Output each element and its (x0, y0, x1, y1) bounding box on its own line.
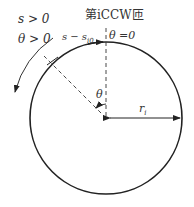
theta-angle-arc (96, 104, 106, 108)
s-minus-subscript: i0 (87, 37, 94, 45)
radius-subscript: i (144, 109, 146, 117)
s-minus-label: s − si0 (62, 32, 94, 45)
diagram-title: 第iCCW匝 (85, 9, 144, 21)
theta-zero-label: θ =0 (109, 30, 135, 41)
radial-line (44, 56, 106, 118)
s-minus-text: s − s (62, 31, 87, 42)
radius-label: ri (139, 103, 147, 117)
s-positive-label: s > 0 (18, 13, 49, 25)
theta-positive-label: θ > 0 (18, 33, 51, 45)
theta-label: θ (96, 89, 103, 100)
